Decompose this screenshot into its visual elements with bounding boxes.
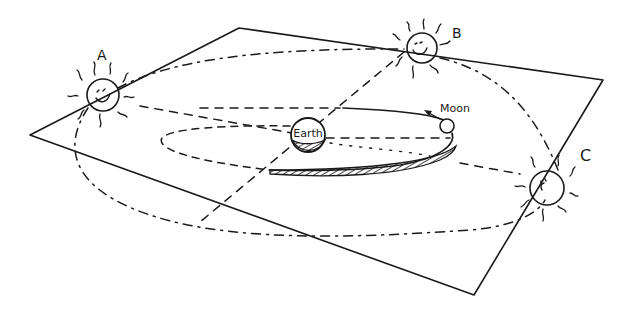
moon-label: Moon (440, 102, 470, 115)
sun-c: C (515, 146, 591, 221)
sun-b: B (393, 19, 462, 78)
sightlines (140, 52, 520, 222)
sun-c-label: C (580, 146, 591, 165)
moon-orbit-shadow (270, 146, 456, 176)
ecliptic-plane (30, 28, 603, 295)
sun-a-label: A (97, 47, 107, 63)
moon: Moon (440, 102, 470, 133)
diagram-canvas: A B C (0, 0, 625, 316)
earth-label: Earth (293, 127, 323, 140)
sun-b-label: B (452, 25, 462, 41)
earth: Earth (291, 118, 325, 152)
